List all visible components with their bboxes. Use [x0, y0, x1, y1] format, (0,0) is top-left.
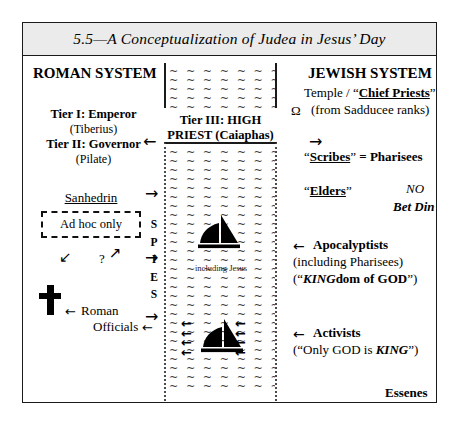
king-emphasis: KING	[376, 342, 409, 357]
omega-icon: Ω	[291, 103, 301, 118]
arrow-left-icon: ←	[293, 238, 305, 255]
activist-arrows-left: ←←←←	[181, 319, 192, 357]
no-label: NO	[406, 181, 424, 196]
arrow-down-left-icon: ↙	[59, 249, 72, 267]
ad-hoc-only-box: Ad hoc only	[41, 211, 141, 238]
water-row: ~ ~ ~ ~ ~ ~ ~ ~ ~ ~ ~ ~	[169, 166, 275, 175]
chief-priests-label: Chief Priests	[359, 85, 430, 100]
water-row: ~ ~ ~ ~ ~ ~ ~ ~ ~ ~ ~ ~	[169, 202, 275, 211]
activists-suffix: ”)	[408, 342, 418, 357]
water-row: ~ ~ ~ ~ ~ ~ ~ ~ ~ ~ ~ ~	[169, 382, 275, 391]
water-row: ~ ~ ~ ~ ~ ~ ~ ~ ~ ~ ~ ~	[169, 85, 275, 94]
bet-din-label: Bet Din	[393, 199, 435, 214]
water-row: ~ ~ ~ ~ ~ ~ ~ ~ ~ ~ ~ ~	[169, 157, 275, 166]
kingdom-of-god-label: (“KINGdom of GOD”)	[293, 271, 417, 286]
elders-label: Elders	[310, 183, 346, 198]
water-row: ~ ~ ~ ~ ~ ~ ~ ~ ~ ~ ~ ~	[169, 274, 275, 283]
water-row: ~ ~ ~ ~ ~ ~ ~ ~ ~ ~ ~ ~	[169, 76, 275, 85]
activists-prefix: (“Only GOD is	[293, 342, 376, 357]
water-row: ~ ~ ~ ~ ~ ~ ~ ~ ~ ~ ~ ~	[169, 373, 275, 382]
apocalyptists-sub-label: (including Pharisees)	[293, 254, 403, 269]
temple-chief-priests-line: Temple / “Chief Priests”	[304, 85, 436, 100]
sanhedrin-label: Sanhedrin	[41, 190, 141, 205]
water-row: ~ ~ ~ ~ ~ ~ ~ ~ ~ ~ ~ ~	[169, 301, 275, 310]
elders-line: “Elders”	[304, 183, 352, 198]
tier3-line2: PRIEST (Caiaphas)	[151, 128, 290, 143]
figure-frame: 5.5—A Conceptualization of Judea in Jesu…	[22, 22, 437, 403]
arrow-right-icon: →	[145, 185, 158, 204]
scribes-line: “Scribes” = Pharisees	[304, 149, 423, 164]
figure-title: 5.5—A Conceptualization of Judea in Jesu…	[73, 30, 385, 48]
sailboat-icon	[198, 213, 242, 253]
water-row: ~ ~ ~ ~ ~ ~ ~ ~ ~ ~ ~ ~	[169, 292, 275, 301]
sadducee-ranks-label: (from Sadducee ranks)	[311, 102, 429, 117]
water-row: ~ ~ ~ ~ ~ ~ ~ ~ ~ ~ ~ ~	[169, 148, 275, 157]
question-mark-label: ?	[99, 251, 105, 266]
essenes-label: Essenes	[385, 385, 428, 400]
water-row: ~ ~ ~ ~ ~ ~ ~ ~ ~ ~ ~ ~	[169, 283, 275, 292]
jewish-system-heading: JEWISH SYSTEM	[308, 65, 432, 83]
tier2-name: (Pilate)	[31, 152, 156, 166]
tier2-label: Tier II: Governor	[31, 137, 156, 152]
roman-officials-line2: Officials	[93, 319, 138, 334]
arrow-up-right-icon: ↗	[109, 245, 122, 263]
cross-icon	[39, 285, 61, 315]
temple-prefix: Temple /	[304, 85, 353, 100]
roman-system-heading: ROMAN SYSTEM	[33, 65, 157, 83]
activists-label: Activists	[313, 325, 361, 340]
tier1-label: Tier I: Emperor	[31, 107, 156, 122]
ad-hoc-only-label: Ad hoc only	[60, 217, 122, 232]
including-jesus-label: including Jesus	[195, 263, 247, 273]
only-god-is-king-label: (“Only GOD is KING”)	[293, 342, 418, 357]
arrow-right-icon: →	[145, 308, 158, 327]
water-row: ~ ~ ~ ~ ~ ~ ~ ~ ~ ~ ~ ~	[169, 184, 275, 193]
scribes-label: Scribes	[310, 149, 350, 164]
water-row: ~ ~ ~ ~ ~ ~ ~ ~ ~ ~ ~ ~	[169, 103, 275, 108]
water-row: ~ ~ ~ ~ ~ ~ ~ ~ ~ ~ ~ ~	[169, 67, 275, 76]
tier1-name: (Tiberius)	[31, 122, 156, 136]
kingdom-rest: dom of GOD	[336, 271, 408, 286]
scribes-suffix: = Pharisees	[356, 149, 423, 164]
water-column-top: ~ ~ ~ ~ ~ ~ ~ ~ ~ ~ ~ ~ ~ ~ ~ ~ ~ ~ ~ ~ …	[164, 63, 277, 108]
activist-arrows-right: ←←←←	[235, 319, 246, 357]
arrow-right-icon: →	[145, 249, 158, 268]
roman-officials-line1: Roman	[81, 303, 119, 318]
king-emphasis: KING	[303, 271, 336, 286]
apocalyptists-label: Apocalyptists	[313, 237, 388, 252]
figure-title-band: 5.5—A Conceptualization of Judea in Jesu…	[23, 23, 436, 56]
water-row: ~ ~ ~ ~ ~ ~ ~ ~ ~ ~ ~ ~	[169, 364, 275, 373]
water-row: ~ ~ ~ ~ ~ ~ ~ ~ ~ ~ ~ ~	[169, 193, 275, 202]
water-row: ~ ~ ~ ~ ~ ~ ~ ~ ~ ~ ~ ~	[169, 175, 275, 184]
arrow-left-icon: ←	[293, 326, 305, 343]
tier3-line1: Tier III: HIGH	[154, 113, 287, 128]
water-row: ~ ~ ~ ~ ~ ~ ~ ~ ~ ~ ~ ~	[169, 94, 275, 103]
arrow-left-icon: ←	[65, 304, 76, 319]
